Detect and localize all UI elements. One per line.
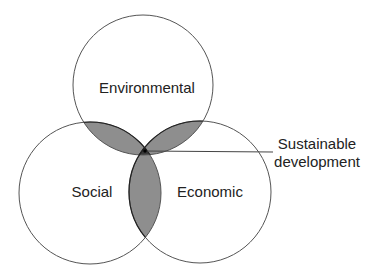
label-sustainable: Sustainable <box>278 135 356 152</box>
callout-dot <box>143 149 147 153</box>
label-development: development <box>274 153 361 170</box>
label-social: Social <box>72 183 113 200</box>
venn-diagram: Environmental Social Economic Sustainabl… <box>0 0 382 273</box>
label-economic: Economic <box>177 183 243 200</box>
label-environmental: Environmental <box>99 79 195 96</box>
